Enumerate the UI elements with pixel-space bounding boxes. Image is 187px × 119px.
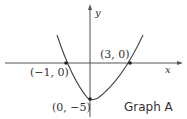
graph-a-chart: y x (−1, 0) (3, 0) (0, −5) Graph A: [0, 0, 187, 119]
parabola-curve: [57, 35, 143, 100]
point-neg1-0: [64, 61, 68, 65]
label-0-neg5: (0, −5): [52, 101, 91, 114]
x-axis-label: x: [165, 64, 171, 75]
point-3-0: [128, 61, 132, 65]
graph-title: Graph A: [124, 100, 174, 114]
label-3-0: (3, 0): [100, 48, 130, 61]
y-axis-arrow-icon: [88, 4, 92, 10]
label-neg1-0: (−1, 0): [30, 66, 69, 79]
x-axis-arrow-icon: [177, 61, 183, 65]
y-axis-label: y: [94, 7, 101, 18]
